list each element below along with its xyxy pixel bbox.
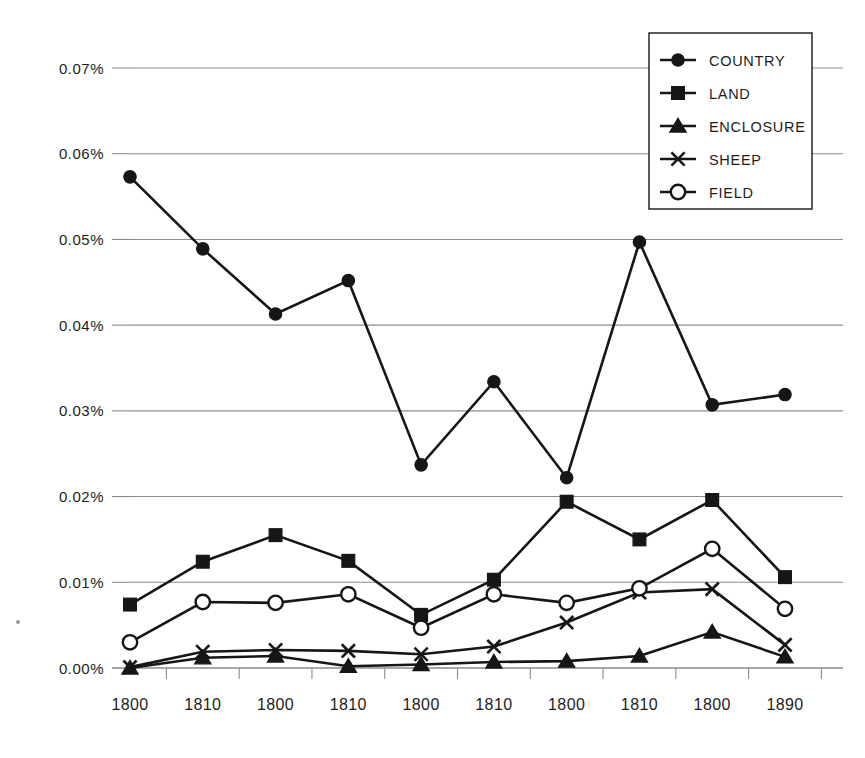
data-point-marker	[197, 243, 209, 255]
data-point-marker	[632, 581, 646, 595]
data-point-marker	[633, 236, 645, 248]
data-point-marker	[414, 621, 428, 635]
data-point-marker	[487, 587, 501, 601]
y-axis-tick-label: 0.04%	[59, 317, 104, 334]
y-axis-tick-label: 0.01%	[59, 574, 104, 591]
data-point-marker	[415, 459, 427, 471]
data-point-marker	[269, 308, 281, 320]
data-point-marker	[123, 635, 137, 649]
data-point-marker	[778, 602, 792, 616]
legend-label-country: COUNTRY	[709, 53, 785, 69]
data-point-marker	[779, 571, 792, 584]
y-axis-tick-label: 0.02%	[59, 488, 104, 505]
x-axis-tick-label: 1890	[766, 696, 803, 713]
data-point-marker	[268, 596, 282, 610]
legend-label-land: LAND	[709, 86, 750, 102]
data-point-marker	[341, 587, 355, 601]
x-axis-tick-label: 1810	[330, 696, 367, 713]
legend-label-field: FIELD	[709, 185, 754, 201]
x-axis-tick-label: 1810	[184, 696, 221, 713]
legend-label-sheep: SHEEP	[709, 152, 762, 168]
data-point-marker	[779, 388, 791, 400]
legend-marker-field	[671, 185, 685, 199]
data-point-marker	[269, 529, 282, 542]
data-point-marker	[488, 376, 500, 388]
data-point-marker	[124, 598, 137, 611]
y-axis-tick-label: 0.00%	[59, 660, 104, 677]
data-point-marker	[342, 274, 354, 286]
scan-artifact-dot	[16, 620, 20, 624]
data-point-marker	[706, 399, 718, 411]
chart-canvas: 0.00%0.01%0.02%0.03%0.04%0.05%0.06%0.07%…	[0, 0, 865, 758]
line-chart-figure: 0.00%0.01%0.02%0.03%0.04%0.05%0.06%0.07%…	[0, 0, 865, 758]
data-point-marker	[633, 533, 646, 546]
data-point-marker	[124, 171, 136, 183]
legend-marker-land	[672, 87, 685, 100]
y-axis-tick-label: 0.03%	[59, 402, 104, 419]
data-point-marker	[487, 573, 500, 586]
chart-legend: COUNTRYLANDENCLOSURESHEEPFIELD	[649, 33, 812, 209]
legend-label-enclosure: ENCLOSURE	[709, 119, 806, 135]
x-axis-tick-label: 1810	[475, 696, 512, 713]
data-point-marker	[342, 554, 355, 567]
y-axis-tick-label: 0.05%	[59, 231, 104, 248]
data-point-marker	[560, 472, 572, 484]
x-axis-tick-label: 1810	[621, 696, 658, 713]
data-point-marker	[196, 555, 209, 568]
data-point-marker	[560, 495, 573, 508]
data-point-marker	[559, 596, 573, 610]
x-axis-tick-label: 1800	[403, 696, 440, 713]
data-point-marker	[706, 494, 719, 507]
data-point-marker	[705, 542, 719, 556]
x-axis-tick-label: 1800	[548, 696, 585, 713]
x-axis-tick-label: 1800	[111, 696, 148, 713]
x-axis-tick-label: 1800	[694, 696, 731, 713]
legend-marker-country	[672, 54, 684, 66]
y-axis-tick-label: 0.06%	[59, 145, 104, 162]
x-axis-tick-label: 1800	[257, 696, 294, 713]
data-point-marker	[196, 595, 210, 609]
y-axis-tick-label: 0.07%	[59, 60, 104, 77]
